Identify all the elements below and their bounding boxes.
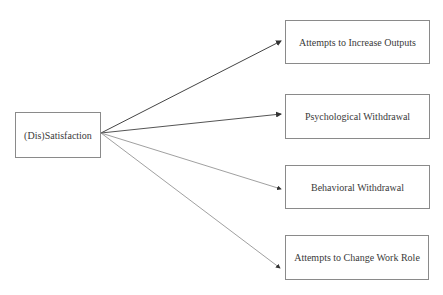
source-node: (Dis)Satisfaction <box>15 112 101 158</box>
source-label: (Dis)Satisfaction <box>24 130 92 141</box>
target-label: Behavioral Withdrawal <box>311 182 404 193</box>
target-label: Attempts to Increase Outputs <box>299 37 416 48</box>
target-node-psychological-withdrawal: Psychological Withdrawal <box>285 94 430 139</box>
target-label: Attempts to Change Work Role <box>294 252 420 263</box>
arrow-to-increase-outputs <box>101 41 281 133</box>
target-node-behavioral-withdrawal: Behavioral Withdrawal <box>285 165 430 209</box>
arrow-to-behavioral-withdrawal <box>101 133 281 189</box>
arrow-to-change-work-role <box>101 133 280 268</box>
target-node-increase-outputs: Attempts to Increase Outputs <box>285 20 430 64</box>
target-label: Psychological Withdrawal <box>305 111 410 122</box>
target-node-change-work-role: Attempts to Change Work Role <box>285 235 429 280</box>
arrow-to-psychological-withdrawal <box>101 114 281 133</box>
